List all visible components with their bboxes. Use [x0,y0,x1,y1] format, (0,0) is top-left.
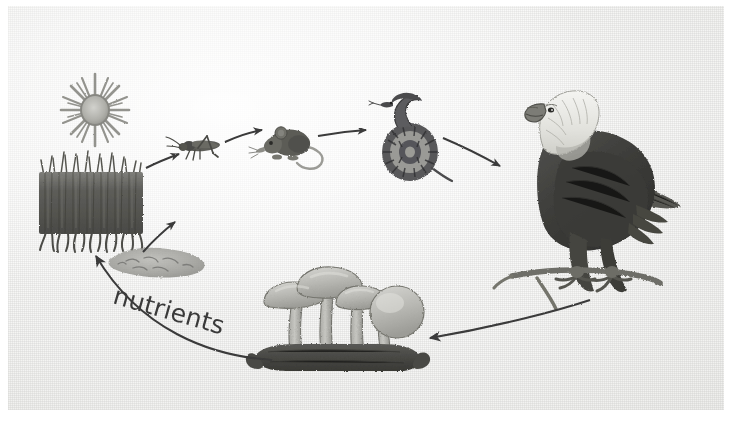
arrow-grass-to-grasshopper-main [146,154,179,168]
bacteria-icon [108,248,204,278]
arrow-eagle-to-mushrooms [430,300,590,338]
arrow-grass-to-grasshopper [143,222,175,252]
arrow-snake-to-eagle [443,138,500,166]
diagram-page: nutrients [0,0,743,422]
grass-icon [39,151,143,252]
sun-icon [61,74,129,146]
eagle-icon [494,91,681,309]
snake-icon [369,93,452,181]
arrow-mouse-to-snake [318,130,366,136]
mouse-icon [249,127,322,169]
mushrooms-icon [246,267,430,371]
arrow-grasshopper-to-mouse [225,130,262,142]
food-chain-illustration [0,0,743,422]
grass-roots [40,232,142,252]
